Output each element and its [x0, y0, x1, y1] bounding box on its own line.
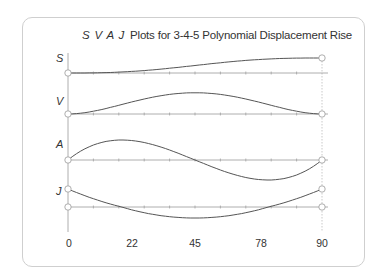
svaj-plot-area	[0, 0, 385, 277]
endpoint-marker	[319, 157, 325, 163]
endpoint-marker	[319, 55, 325, 61]
curve-s	[68, 58, 322, 73]
endpoint-marker	[65, 186, 71, 192]
endpoint-marker	[65, 204, 71, 210]
curve-j	[68, 189, 322, 218]
endpoint-marker	[319, 111, 325, 117]
curve-v	[68, 93, 322, 114]
endpoint-marker	[65, 70, 71, 76]
endpoint-marker	[319, 204, 325, 210]
endpoint-marker	[65, 111, 71, 117]
endpoint-marker	[319, 186, 325, 192]
endpoint-marker	[65, 157, 71, 163]
